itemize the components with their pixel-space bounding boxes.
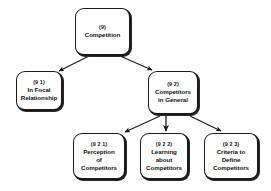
node-label-line: in General <box>158 96 188 104</box>
node-criteria-to-define-competitors[interactable]: (9 2 3) Criteria to Define Competitors <box>204 133 259 180</box>
node-label-line: Competition <box>85 31 121 39</box>
node-label-line: Criteria to <box>217 148 246 156</box>
node-label-line: Competitors <box>155 88 191 96</box>
node-in-focal-relationship[interactable]: (9 1) In Focal Relationship <box>16 71 63 111</box>
edge-root-to-general <box>120 56 152 70</box>
node-code: (9 2 1) <box>91 141 107 148</box>
node-label-line: of <box>96 156 102 164</box>
node-label-line: Competitors <box>213 164 249 172</box>
node-label-line: Competitors <box>146 164 182 172</box>
node-label-line: Relationship <box>21 94 58 102</box>
node-label-line: Learning <box>151 148 177 156</box>
node-label-line: Perception <box>83 148 114 156</box>
node-label-line: Define <box>222 156 241 164</box>
node-label-line: about <box>156 156 173 164</box>
node-code: (9 2 3) <box>223 141 239 148</box>
node-code: (9 2) <box>167 81 179 88</box>
node-learning-about-competitors[interactable]: (9 2 2) Learning about Competitors <box>140 133 189 180</box>
node-competitors-in-general[interactable]: (9 2) Competitors in General <box>148 71 199 115</box>
node-label-line: Competitors <box>81 164 117 172</box>
node-code: (9 2 2) <box>156 141 172 148</box>
edge-general-to-criteria <box>190 116 221 131</box>
edge-general-to-perception <box>125 116 160 132</box>
node-code: (9) <box>99 24 106 31</box>
node-label-line: In Focal <box>28 86 51 94</box>
node-code: (9 1) <box>33 79 45 86</box>
node-competition[interactable]: (9) Competition <box>75 8 131 56</box>
node-perception-of-competitors[interactable]: (9 2 1) Perception of Competitors <box>73 133 126 180</box>
diagram-canvas: (9) Competition (9 1) In Focal Relations… <box>0 0 271 191</box>
edge-root-to-focal <box>59 56 89 71</box>
